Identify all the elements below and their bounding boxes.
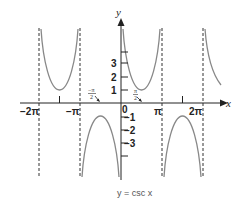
y-tick-2: 2 xyxy=(111,72,117,83)
svg-text:−π: −π xyxy=(88,87,94,93)
curve-branch-2 xyxy=(82,116,119,177)
svg-text:2: 2 xyxy=(90,94,93,100)
y-axis-arrow-icon xyxy=(118,18,125,26)
y-tick-neg-2: −2 xyxy=(124,125,136,136)
annotation-neg-pi-over-2: −π 2 xyxy=(88,87,100,102)
x-tick-neg-2pi: −2π xyxy=(20,106,39,117)
x-tick-pi: π xyxy=(154,106,162,117)
svg-text:π: π xyxy=(134,88,137,94)
y-tick-3: 3 xyxy=(111,58,117,69)
curve-branch-3 xyxy=(123,29,160,90)
curve-branch-5 xyxy=(205,29,221,85)
x-tick-neg-pi: −π xyxy=(66,106,80,117)
figure-caption: y = csc x xyxy=(117,188,153,198)
y-tick-1: 1 xyxy=(111,85,117,96)
y-axis-label: y xyxy=(115,6,121,18)
x-axis-label: x xyxy=(225,97,231,109)
svg-text:2: 2 xyxy=(134,95,137,101)
curve-branch-1 xyxy=(41,29,78,90)
curve-branch-4 xyxy=(164,116,201,177)
y-tick-neg-1: −1 xyxy=(124,112,136,123)
y-tick-neg-3: −3 xyxy=(124,138,136,149)
x-tick-2pi: 2π xyxy=(189,106,203,117)
csc-graph: y x −2π −π 0 π 2π 1 2 3 −1 −2 −3 −π 2 π … xyxy=(0,0,234,209)
